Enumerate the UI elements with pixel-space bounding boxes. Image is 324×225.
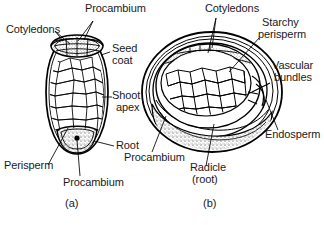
label-root-a: Root <box>116 140 139 152</box>
label-endosperm-b: Endosperm <box>265 129 320 141</box>
label-perisperm-a: Perisperm <box>4 160 53 172</box>
label-procambium-a-bottom: Procambium <box>63 177 124 189</box>
label-radicle-line1: Radicle <box>190 162 226 174</box>
procambium-dot-a <box>74 135 79 140</box>
label-radicle-line2: (root) <box>192 174 218 186</box>
label-vascular-bundles-line1: Vascular <box>272 60 313 72</box>
label-starchy-perisperm-line2: perisperm <box>258 29 306 41</box>
label-vascular-bundles-line2: bundles <box>274 72 312 84</box>
label-seed-coat-line2: coat <box>112 55 132 67</box>
label-procambium-a-top: Procambium <box>85 3 146 15</box>
label-cotyledons-b: Cotyledons <box>205 3 259 15</box>
panel-a-seed <box>44 21 114 176</box>
label-procambium-b: Procambium <box>124 152 185 164</box>
label-shoot-apex-line1: Shoot <box>112 90 140 102</box>
label-seed-coat-line1: Seed <box>112 43 137 55</box>
seed-structure-figure: Cotyledons Procambium Seed coat Shoot ap… <box>0 0 324 225</box>
label-starchy-perisperm-line1: Starchy <box>262 17 299 29</box>
caption-panel-a: (a) <box>65 197 78 209</box>
label-shoot-apex-line2: apex <box>116 102 139 114</box>
label-cotyledons-a: Cotyledons <box>6 24 60 36</box>
caption-panel-b: (b) <box>203 197 216 209</box>
